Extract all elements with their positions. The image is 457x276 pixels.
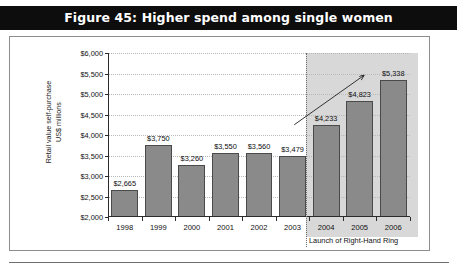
y-axis-tick-label: $5,000 bbox=[80, 90, 103, 99]
figure-root: Figure 45: Higher spend among single wom… bbox=[0, 0, 457, 276]
y-axis-tick-label: $2,500 bbox=[80, 192, 103, 201]
bar bbox=[346, 101, 373, 217]
chart-card: Retail value self-purchase US$ millions … bbox=[9, 36, 430, 251]
x-axis-tick-label: 2005 bbox=[351, 223, 368, 232]
y-axis-tick-label: $3,000 bbox=[80, 172, 103, 181]
bar-value-label: $3,560 bbox=[248, 142, 271, 151]
footer-divider bbox=[9, 262, 449, 263]
bar-value-label: $4,233 bbox=[315, 114, 338, 123]
launch-annotation: Launch of Right-Hand Ring bbox=[309, 236, 398, 245]
x-axis-tick-label: 2004 bbox=[318, 223, 335, 232]
x-axis-tick-label: 2003 bbox=[284, 223, 301, 232]
x-axis-tick-mark bbox=[108, 217, 109, 221]
bar-value-label: $2,665 bbox=[113, 179, 136, 188]
x-axis-tick-mark bbox=[242, 217, 243, 221]
launch-divider-line bbox=[306, 53, 307, 247]
x-axis-tick-label: 1999 bbox=[150, 223, 167, 232]
x-axis-tick-mark bbox=[410, 217, 411, 221]
plot-area: $2,000$2,500$3,000$3,500$4,000$4,500$5,0… bbox=[108, 53, 410, 217]
x-axis-tick-mark bbox=[343, 217, 344, 221]
y-axis-line bbox=[108, 53, 109, 217]
y-axis-tick-label: $4,000 bbox=[80, 131, 103, 140]
x-axis-tick-mark bbox=[175, 217, 176, 221]
gridline bbox=[108, 53, 410, 54]
figure-title-bar: Figure 45: Higher spend among single wom… bbox=[0, 6, 457, 30]
x-axis-tick-label: 2002 bbox=[251, 223, 268, 232]
x-axis-tick-mark bbox=[376, 217, 377, 221]
y-axis-tick-label: $6,000 bbox=[80, 49, 103, 58]
figure-title: Figure 45: Higher spend among single wom… bbox=[0, 6, 457, 30]
y-axis-tick-label: $3,500 bbox=[80, 151, 103, 160]
x-axis-tick-mark bbox=[276, 217, 277, 221]
x-axis-tick-label: 2000 bbox=[183, 223, 200, 232]
bar-value-label: $3,260 bbox=[181, 154, 204, 163]
bar bbox=[178, 165, 205, 217]
bar bbox=[212, 153, 239, 217]
bar bbox=[380, 80, 407, 217]
x-axis-tick-label: 2006 bbox=[385, 223, 402, 232]
gridline bbox=[108, 74, 410, 75]
bar bbox=[313, 125, 340, 217]
bar-value-label: $3,550 bbox=[214, 142, 237, 151]
x-axis-tick-mark bbox=[142, 217, 143, 221]
bar-value-label: $3,750 bbox=[147, 134, 170, 143]
bar bbox=[246, 153, 273, 217]
y-axis-tick-label: $2,000 bbox=[80, 213, 103, 222]
bar bbox=[111, 190, 138, 217]
x-axis-tick-label: 1998 bbox=[116, 223, 133, 232]
y-axis-tick-label: $4,500 bbox=[80, 110, 103, 119]
bar-value-label: $4,823 bbox=[348, 90, 371, 99]
bar bbox=[145, 145, 172, 217]
x-axis-line bbox=[108, 216, 410, 217]
bar-value-label: $3,479 bbox=[281, 145, 304, 154]
bar-value-label: $5,338 bbox=[382, 69, 405, 78]
x-axis-tick-label: 2001 bbox=[217, 223, 234, 232]
x-axis-tick-mark bbox=[309, 217, 310, 221]
y-axis-title: Retail value self-purchase US$ millions bbox=[44, 56, 70, 188]
bar bbox=[279, 156, 306, 217]
x-axis-tick-mark bbox=[209, 217, 210, 221]
y-axis-tick-label: $5,500 bbox=[80, 69, 103, 78]
